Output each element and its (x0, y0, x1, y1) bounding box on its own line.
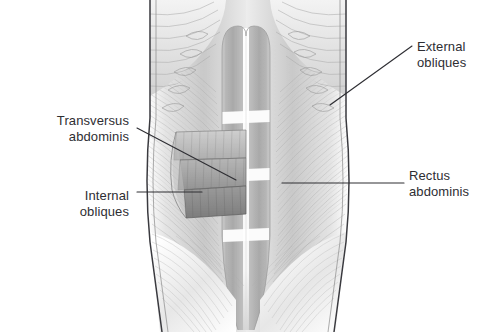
label-rectus-abdominis-line2: abdominis (409, 184, 469, 199)
label-internal-obliques-line1: Internal (85, 188, 129, 203)
label-internal-obliques-line2: obliques (80, 204, 129, 219)
label-external-obliques: Externalobliques (417, 39, 466, 71)
label-internal-obliques: Internalobliques (26, 188, 129, 220)
external-oblique-flap (174, 130, 246, 160)
label-external-obliques-line1: External (417, 39, 466, 54)
label-rectus-abdominis-line1: Rectus (409, 168, 450, 183)
transversus-abdominis-flap (184, 186, 246, 218)
label-external-obliques-line2: obliques (417, 55, 466, 70)
cutaway-muscle-layers (171, 130, 246, 220)
anatomy-figure: Externalobliques Rectusabdominis Transve… (0, 0, 492, 332)
label-transversus-abdominis-line2: abdominis (69, 129, 129, 144)
label-transversus-abdominis-line1: Transversus (57, 113, 129, 128)
label-rectus-abdominis: Rectusabdominis (409, 168, 469, 200)
label-transversus-abdominis: Transversusabdominis (26, 113, 129, 145)
